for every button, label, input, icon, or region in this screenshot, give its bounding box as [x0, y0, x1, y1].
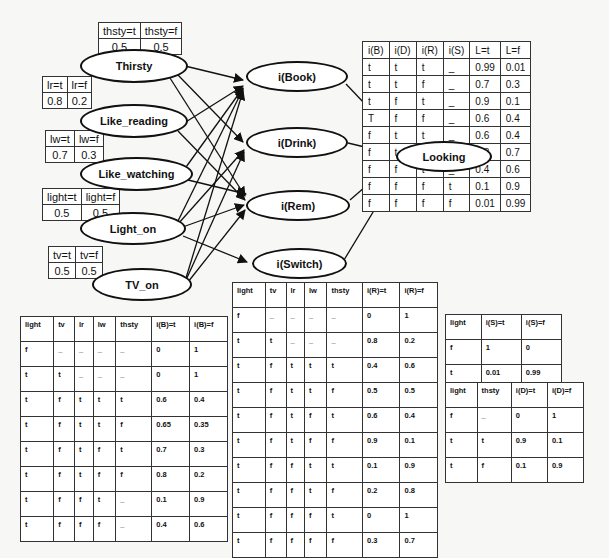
table-cell: _ [305, 333, 327, 358]
table-cell: f [305, 508, 327, 533]
table-row: tfttt0.60.4 [21, 392, 228, 417]
header-cell: tv=t [49, 247, 76, 263]
table-row: f10 [446, 340, 562, 365]
node-i-rem[interactable]: i(Rem) [246, 190, 350, 221]
table-cell: _ [116, 517, 152, 542]
node-i-drink[interactable]: i(Drink) [246, 127, 348, 158]
header-cell: light [21, 317, 54, 342]
table-cell: f [265, 383, 286, 408]
table-cell: t [54, 367, 75, 392]
table-cell: t [389, 59, 416, 76]
node-thirsty[interactable]: Thirsty [80, 49, 188, 83]
table-cell: t [233, 358, 266, 383]
table-cell: _ [93, 342, 116, 367]
table-row: ttt_0.990.01 [363, 59, 531, 76]
node-like-reading[interactable]: Like_reading [80, 104, 188, 138]
table-cell: t [305, 358, 327, 383]
table-cell: f [265, 533, 286, 558]
table-row: tfftf0.20.8 [233, 483, 438, 508]
table-cell: 0.2 [362, 483, 400, 508]
table-cell: 0.4 [400, 408, 438, 433]
table-cell: _ [286, 308, 305, 333]
table-cell: t [21, 442, 54, 467]
table-cell: 0.8 [362, 333, 400, 358]
table-cell: t [116, 442, 152, 467]
table-cell: 0.6 [190, 517, 228, 542]
table-cell: t [75, 417, 94, 442]
table-cell: 0.2 [190, 467, 228, 492]
table-cell: t [21, 492, 54, 517]
table-cell: t [416, 59, 443, 76]
table-row: tftff0.80.2 [21, 467, 228, 492]
table-cell: f [93, 442, 116, 467]
header-cell: light [233, 283, 266, 308]
table-cell: f [54, 467, 75, 492]
table-cell: t [75, 467, 94, 492]
table-cell: t [21, 517, 54, 542]
table-cell: f [327, 383, 363, 408]
table-cell: f [265, 483, 286, 508]
table-cell: 0.35 [190, 417, 228, 442]
table-cell: 0.3 [190, 442, 228, 467]
table-cell: 0.4 [500, 110, 530, 127]
table-row: Tff_0.60.4 [363, 110, 531, 127]
table-cell: 0.7 [470, 76, 500, 93]
table-cell: 1 [190, 342, 228, 367]
node-label: i(Switch) [277, 258, 323, 270]
node-label: i(Drink) [278, 137, 317, 149]
table-cell: 0.6 [470, 127, 500, 144]
table-cell: t [233, 333, 266, 358]
table-cell: t [286, 433, 305, 458]
table-row: tftff0.90.1 [233, 433, 438, 458]
table-cell: t [446, 433, 478, 458]
header-cell: lr=f [67, 77, 92, 93]
table-cell: 0.4 [190, 392, 228, 417]
table-cell: t [389, 127, 416, 144]
table-cell: f [416, 110, 443, 127]
table-cell: 0.65 [152, 417, 190, 442]
table-cell: 1 [400, 308, 438, 333]
table-cell: f [265, 358, 286, 383]
table-row: tft_0.90.1 [363, 93, 531, 110]
node-looking[interactable]: Looking [396, 141, 492, 172]
table-row: tfft_0.10.9 [21, 492, 228, 517]
table-cell: f [54, 492, 75, 517]
node-tv-on[interactable]: TV_on [92, 268, 192, 301]
table-cell: 0.9 [400, 458, 438, 483]
node-light-on[interactable]: Light_on [80, 212, 186, 245]
node-like-watching[interactable]: Like_watching [80, 157, 193, 191]
node-i-book[interactable]: i(Book) [246, 61, 348, 92]
table-cell: f [93, 517, 116, 542]
table-cell: f [233, 308, 266, 333]
table-row: tfttf0.50.5 [233, 383, 438, 408]
table-cell: f [21, 342, 54, 367]
table-cell: _ [116, 342, 152, 367]
header-cell: i(R)=f [400, 283, 438, 308]
table-cell: f [363, 144, 390, 161]
table-cell: _ [443, 110, 470, 127]
table-cell: T [363, 110, 390, 127]
table-cell: _ [443, 59, 470, 76]
header-cell: i(R)=t [362, 283, 400, 308]
table-cell: 0.7 [500, 144, 530, 161]
table-cell: t [233, 458, 266, 483]
table-cell: t [233, 483, 266, 508]
header-cell: light [446, 315, 482, 340]
table-cell: 0.1 [470, 178, 500, 195]
table-cell: 0.9 [362, 433, 400, 458]
header-cell: i(B) [363, 42, 390, 59]
table-cell: 0.9 [190, 492, 228, 517]
table-cell: f [54, 517, 75, 542]
table-cell: 0.6 [362, 408, 400, 433]
table-cell: 1 [481, 340, 521, 365]
header-cell: lw=t [46, 131, 75, 147]
table-row: f____01 [233, 308, 438, 333]
table-cell: t [233, 383, 266, 408]
table-cell: _ [75, 342, 94, 367]
table-cell: f [389, 178, 416, 195]
table-cell: f [446, 340, 482, 365]
header-cell: tv [265, 283, 286, 308]
table-cell: f [416, 195, 443, 212]
table-cell: 0 [362, 308, 400, 333]
node-i-switch[interactable]: i(Switch) [252, 248, 347, 279]
